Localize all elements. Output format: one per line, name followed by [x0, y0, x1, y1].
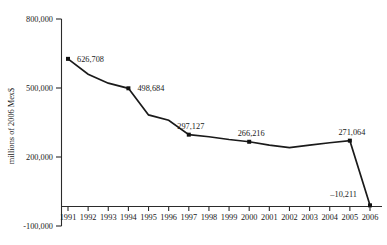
- data-point-marker-1994: [126, 86, 130, 90]
- data-series-line: [68, 59, 370, 205]
- data-point-label-1991: 626,708: [77, 55, 104, 64]
- data-point-marker-2006: [368, 203, 372, 207]
- data-point-label-2005: 271,064: [338, 128, 366, 137]
- data-point-marker-2005: [348, 139, 352, 143]
- y-axis-ticks: [56, 19, 62, 226]
- x-tick-label-1994: 1994: [120, 213, 137, 222]
- x-tick-label-1992: 1992: [80, 213, 97, 222]
- y-tick-label-1: 500,000: [26, 84, 53, 93]
- x-tick-label-2006: 2006: [362, 213, 379, 222]
- data-point-label-1994: 498,684: [137, 84, 165, 93]
- x-tick-label-1993: 1993: [100, 213, 117, 222]
- x-tick-label-1998: 1998: [201, 213, 218, 222]
- data-point-marker-1997: [187, 133, 191, 137]
- x-tick-label-2004: 2004: [321, 213, 338, 222]
- data-point-markers: [66, 57, 372, 207]
- y-axis-tick-labels: 800,000 500,000 200,000 -100,000: [23, 15, 53, 231]
- x-tick-label-1997: 1997: [181, 213, 198, 222]
- data-point-label-2000: 266,216: [238, 129, 265, 138]
- data-point-labels: 626,708498,684297,127266,216271,064–10,2…: [77, 55, 366, 199]
- line-chart-svg: millions of 2006 Mex$ 800,000 500,000 20…: [0, 0, 387, 245]
- data-point-label-1997: 297,127: [177, 122, 204, 131]
- x-tick-label-1999: 1999: [221, 213, 238, 222]
- x-tick-label-2001: 2001: [261, 213, 278, 222]
- x-tick-label-2002: 2002: [281, 213, 298, 222]
- y-axis-title: millions of 2006 Mex$: [7, 88, 16, 164]
- x-tick-label-2003: 2003: [301, 213, 318, 222]
- y-tick-label-2: 200,000: [26, 153, 53, 162]
- x-tick-label-1995: 1995: [140, 213, 157, 222]
- x-tick-label-1991: 1991: [60, 213, 77, 222]
- x-tick-label-2000: 2000: [241, 213, 258, 222]
- y-tick-label-3: -100,000: [23, 222, 53, 231]
- y-tick-label-0: 800,000: [26, 15, 53, 24]
- data-point-marker-2000: [247, 140, 251, 144]
- data-point-label-2006: –10,211: [329, 190, 357, 199]
- x-axis-ticks-and-labels: 1991199219931994199519961997199819992000…: [60, 207, 379, 222]
- chart-container: millions of 2006 Mex$ 800,000 500,000 20…: [0, 0, 387, 245]
- x-tick-label-1996: 1996: [160, 213, 177, 222]
- x-tick-label-2005: 2005: [342, 213, 359, 222]
- data-point-marker-1991: [66, 57, 70, 61]
